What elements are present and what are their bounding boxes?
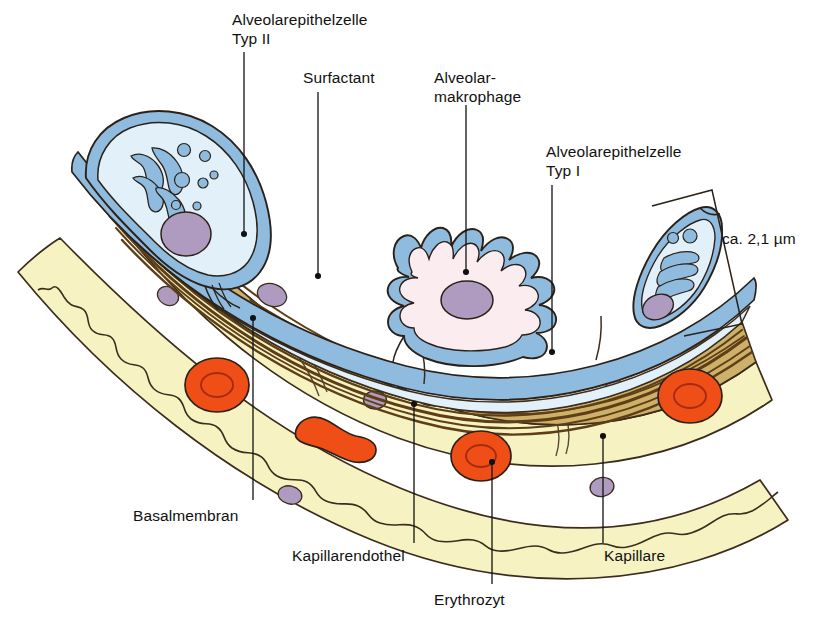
- label-kapillarendothel: Kapillarendothel: [292, 546, 405, 565]
- alveolus-diagram: [0, 0, 817, 636]
- endothelial-nucleus: [589, 476, 616, 499]
- figure-canvas: Alveolarepithelzelle Typ II Surfactant A…: [0, 0, 817, 636]
- label-alveolar-epithelial-cell-type-1: Alveolarepithelzelle Typ I: [546, 142, 682, 180]
- erythrocyte-face-view: [185, 358, 249, 412]
- label-alveolar-macrophage: Alveolar- makrophage: [434, 68, 521, 106]
- label-kapillare: Kapillare: [604, 546, 665, 565]
- alveolar-macrophage: [388, 228, 556, 366]
- type2-nucleus: [161, 212, 211, 256]
- label-barrier-thickness: ca. 2,1 µm: [722, 229, 796, 248]
- alveolar-epithelial-cell-type-2-right: [633, 207, 722, 328]
- label-surfactant: Surfactant: [303, 68, 375, 87]
- label-erythrozyt: Erythrozyt: [434, 590, 505, 609]
- label-alveolar-epithelial-cell-type-2: Alveolarepithelzelle Typ II: [232, 10, 368, 48]
- label-basalmembran: Basalmembran: [133, 506, 238, 525]
- erythrocyte-face-view: [451, 431, 511, 481]
- erythrocyte-face-view: [658, 369, 722, 423]
- macrophage-nucleus: [441, 281, 493, 319]
